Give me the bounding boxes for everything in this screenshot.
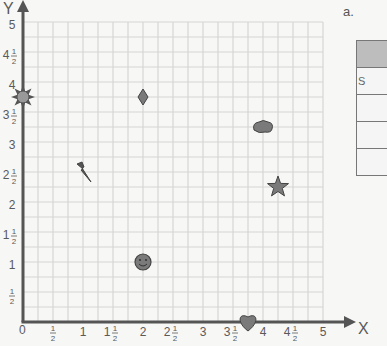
x-tick-label: 4 (260, 325, 267, 339)
tick-numerator: 1 (12, 227, 17, 236)
tick-numerator: 1 (233, 324, 238, 333)
y-tick-label: 1 (9, 258, 16, 272)
y-tick-label: 412 (3, 47, 17, 66)
x-tick-label: 412 (284, 324, 298, 343)
tick-denominator: 2 (293, 334, 298, 343)
diamond-icon (138, 89, 148, 105)
tick-denominator: 2 (51, 334, 56, 343)
tick-whole: 3 (3, 108, 10, 122)
tick-denominator: 2 (173, 334, 178, 343)
x-tick-label: 312 (224, 324, 238, 343)
y-tick-label: 12 (9, 287, 15, 306)
y-tick-label: 5 (9, 18, 16, 32)
y-tick-label: 212 (3, 167, 17, 186)
answer-table-row[interactable] (357, 149, 387, 175)
x-axis-arrow-icon (344, 316, 356, 328)
answer-table-row[interactable]: S (357, 68, 387, 95)
answer-table-header (357, 41, 387, 68)
tick-whole: 2 (140, 325, 147, 339)
tick-whole: 3 (9, 138, 16, 152)
tick-numerator: 1 (293, 324, 298, 333)
x-tick-label: 12 (50, 324, 56, 343)
tick-numerator: 1 (10, 287, 15, 296)
smiley-icon (135, 254, 151, 270)
sun-icon (11, 85, 35, 109)
tick-whole: 1 (80, 325, 87, 339)
x-axis-label: X (358, 320, 369, 337)
grid-lines (23, 22, 323, 322)
axes: YX (3, 0, 369, 337)
tick-whole: 4 (3, 48, 10, 62)
tick-numerator: 1 (12, 47, 17, 56)
tick-denominator: 2 (12, 237, 17, 246)
tick-whole: 1 (9, 258, 16, 272)
tick-denominator: 2 (12, 177, 17, 186)
tick-whole: 2 (164, 325, 171, 339)
tick-whole: 4 (260, 325, 267, 339)
x-tick-label: 3 (200, 325, 207, 339)
tick-denominator: 2 (12, 57, 17, 66)
tick-numerator: 1 (12, 167, 17, 176)
tick-whole: 2 (3, 168, 10, 182)
cloud-icon (254, 121, 273, 133)
tick-whole: 4 (284, 325, 291, 339)
y-tick-label: 2 (9, 198, 16, 212)
heart-icon (240, 316, 256, 331)
question-label: a. (343, 4, 354, 19)
tick-whole: 2 (9, 198, 16, 212)
tick-whole: 3 (200, 325, 207, 339)
tick-denominator: 2 (12, 117, 17, 126)
tick-denominator: 2 (10, 297, 15, 306)
answer-table-row[interactable] (357, 95, 387, 122)
tick-whole: 3 (224, 325, 231, 339)
tick-numerator: 1 (51, 324, 56, 333)
y-axis-label: Y (3, 0, 14, 17)
x-tick-label: 5 (320, 325, 327, 339)
answer-table: S (356, 40, 387, 176)
x-tick-label: 2 (140, 325, 147, 339)
y-tick-label: 3 (9, 138, 16, 152)
tick-whole: 4 (9, 78, 16, 92)
tick-whole: 5 (9, 18, 16, 32)
y-axis-arrow-icon (17, 0, 29, 12)
y-tick-label: 312 (3, 107, 17, 126)
tick-denominator: 2 (233, 334, 238, 343)
x-tick-label: 212 (164, 324, 178, 343)
tick-numerator: 1 (173, 324, 178, 333)
y-tick-label: 4 (9, 78, 16, 92)
tick-whole: 5 (320, 325, 327, 339)
answer-table-row[interactable] (357, 122, 387, 149)
tick-denominator: 2 (113, 334, 118, 343)
tick-whole: 1 (104, 325, 111, 339)
y-tick-label: 112 (3, 227, 17, 246)
x-tick-label: 1 (80, 325, 87, 339)
x-tick-label: 112 (104, 324, 118, 343)
tick-numerator: 1 (12, 107, 17, 116)
origin-label: 0 (19, 323, 26, 337)
tick-whole: 1 (3, 228, 10, 242)
tick-numerator: 1 (113, 324, 118, 333)
